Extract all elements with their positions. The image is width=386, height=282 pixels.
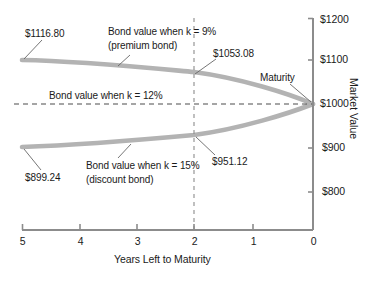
y-tick-label-1200: $1200 [320,14,349,26]
x-tick-label-5: 5 [16,236,29,248]
annotation-discount-series-label-line1: Bond value when k = 15% [86,160,200,172]
x-tick-label-4: 4 [74,236,87,248]
annotation-discount-at-2yrs-value: $951.12 [212,156,247,168]
leader-line-951 [196,137,215,155]
y-tick-label-1000: $1000 [320,98,349,110]
annotation-discount-start-value: $899.24 [25,172,60,184]
annotation-premium-series-label-line1: Bond value when k = 9% [108,26,216,38]
y-axis-title: Market Value [348,78,360,139]
annotation-premium-start-value: $1116.80 [25,28,64,40]
bond-value-chart: $1200 $1100 $1000 $900 $800 Market Value… [0,0,386,282]
x-tick-label-3: 3 [131,236,144,248]
y-tick-label-1100: $1100 [320,54,348,66]
leader-line-discount-label [118,144,131,158]
annotation-premium-series-label-line2: (premium bond) [108,40,177,52]
x-tick-label-2: 2 [188,236,201,248]
x-axis-title: Years Left to Maturity [114,254,211,266]
annotation-par-series-label: Bond value when k = 12% [46,90,166,102]
series-discount-bond-curve [22,104,313,147]
leader-line-1116 [24,40,42,59]
x-tick-label-1: 1 [247,236,260,248]
annotation-maturity-label: Maturity [260,72,295,84]
annotation-premium-at-2yrs-value: $1053.08 [213,48,254,60]
y-tick-label-800: $800 [322,186,345,198]
annotation-discount-series-label-line2: (discount bond) [86,174,153,186]
y-tick-label-900: $900 [322,142,345,154]
x-tick-label-0: 0 [307,236,320,248]
leader-line-899 [24,149,41,170]
